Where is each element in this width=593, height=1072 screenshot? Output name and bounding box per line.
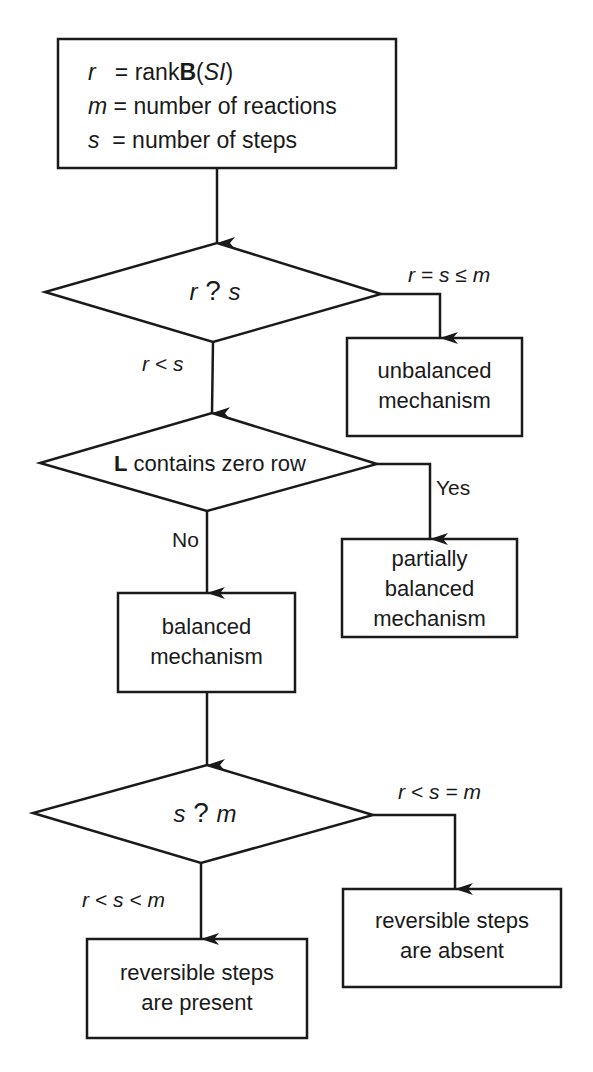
decision2-no-label: No	[172, 528, 199, 552]
definition-r: r = rankB(SI)	[88, 55, 388, 89]
present-text: reversible steps are present	[87, 958, 307, 1018]
arrow-decision3-to-absent	[373, 815, 455, 889]
decision3-text: s ? m	[120, 798, 290, 829]
balanced-text: balanced mechanism	[118, 612, 295, 672]
definition-s: s = number of steps	[88, 123, 388, 157]
decision1-text: r ? s	[130, 276, 300, 307]
arrow-decision1-to-decision2	[212, 342, 213, 413]
definitions-text: r = rankB(SI) m = number of reactions s …	[88, 55, 388, 157]
decision1-right-label: r = s ≤ m	[408, 263, 490, 287]
decision2-text: L contains zero row	[70, 449, 350, 479]
arrow-decision1-to-unbalanced	[381, 294, 440, 338]
decision3-down-label: r < s < m	[82, 888, 165, 912]
partially-balanced-text: partially balanced mechanism	[342, 544, 517, 634]
arrow-decision2-yes	[377, 464, 430, 539]
decision1-down-label: r < s	[142, 352, 183, 376]
definition-m: m = number of reactions	[88, 89, 388, 123]
decision2-yes-label: Yes	[436, 476, 470, 500]
absent-text: reversible steps are absent	[343, 906, 561, 966]
decision3-right-label: r < s = m	[398, 780, 481, 804]
unbalanced-text: unbalanced mechanism	[347, 356, 522, 416]
